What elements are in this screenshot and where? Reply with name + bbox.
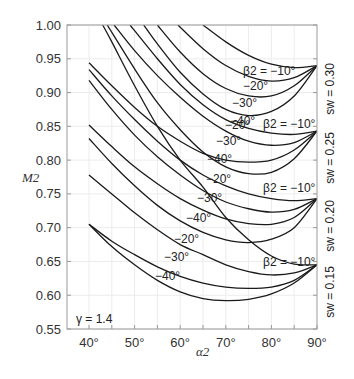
curve-label: −30°	[216, 134, 241, 148]
x-tick-label: 80°	[262, 335, 282, 350]
family-label: sw = 0.25	[323, 132, 337, 184]
curve-label: −20°	[243, 79, 268, 93]
y-tick-label: 0.80	[36, 153, 61, 168]
family-labels: sw = 0.30sw = 0.25sw = 0.20sw = 0.15	[323, 63, 337, 318]
family-label: sw = 0.15	[323, 266, 337, 318]
curve-label: −40°	[186, 211, 211, 225]
curve-label: −40°	[155, 269, 180, 283]
family-label: sw = 0.20	[323, 200, 337, 252]
x-tick-label: 50°	[125, 335, 145, 350]
y-tick-label: 0.85	[36, 119, 61, 134]
curve-label: −30°	[164, 250, 189, 264]
y-tick-label: 0.70	[36, 220, 61, 235]
gamma-annotation: γ = 1.4	[76, 312, 113, 326]
family-label: sw = 0.30	[323, 63, 337, 115]
curve-label: β2 = −10°	[243, 64, 296, 78]
y-tick-label: 0.55	[36, 322, 61, 337]
curve-label: −20°	[225, 118, 250, 132]
curve-label: −40°	[207, 152, 232, 166]
y-tick-label: 1.00	[36, 18, 61, 33]
x-tick-label: 40°	[79, 335, 99, 350]
x-tick-label: 90°	[307, 335, 327, 350]
y-tick-label: 0.75	[36, 186, 61, 201]
x-tick-label: 60°	[170, 335, 190, 350]
y-tick-label: 0.60	[36, 288, 61, 303]
x-tick-label: 70°	[216, 335, 236, 350]
curve-label: −20°	[206, 172, 231, 186]
curve-label: −20°	[174, 232, 199, 246]
curve-label: β2 = −10°	[263, 255, 316, 269]
curve-label: −30°	[197, 191, 222, 205]
y-tick-label: 0.65	[36, 254, 61, 269]
y-tick-label: 0.90	[36, 85, 61, 100]
curve-label: β2 = −10°	[263, 181, 316, 195]
curve-label: β2 = −10°	[263, 117, 316, 131]
x-axis-label: α2	[196, 344, 210, 359]
y-tick-label: 0.95	[36, 51, 61, 66]
chart: 1.000.950.900.850.800.750.700.650.600.55…	[0, 0, 354, 379]
curve-label: −30°	[232, 96, 257, 110]
y-axis-label: M2	[21, 170, 40, 185]
